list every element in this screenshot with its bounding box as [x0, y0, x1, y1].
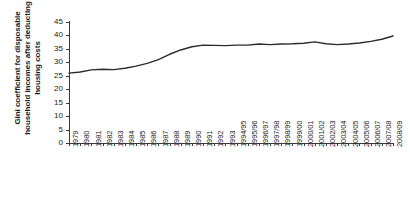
x-tick-label: 1988: [173, 131, 181, 147]
y-tick-label: 10: [41, 112, 63, 120]
y-tick-label: 45: [41, 18, 63, 26]
y-tick-mark: [66, 76, 69, 77]
x-tick-mark: [315, 143, 316, 146]
x-tick-mark: [170, 143, 171, 146]
x-tick-mark: [69, 143, 70, 146]
x-tick-label: 1997/98: [273, 121, 281, 147]
x-tick-label: 1982: [106, 131, 114, 147]
x-tick-mark: [125, 143, 126, 146]
x-tick-mark: [114, 143, 115, 146]
y-tick-label: 0: [41, 139, 63, 147]
x-tick-mark: [181, 143, 182, 146]
x-tick-mark: [359, 143, 360, 146]
y-axis-title-line-2: household incomes after deducting: [23, 1, 33, 134]
x-tick-mark: [393, 143, 394, 146]
x-tick-label: 1991: [206, 131, 214, 147]
x-tick-label: 2000/01: [307, 121, 315, 147]
x-tick-mark: [292, 143, 293, 146]
x-tick-mark: [371, 143, 372, 146]
x-tick-label: 1998/99: [284, 121, 292, 147]
y-tick-mark: [66, 103, 69, 104]
x-tick-label: 1985: [139, 131, 147, 147]
y-tick-mark: [66, 35, 69, 36]
x-tick-label: 2002/03: [329, 121, 337, 147]
x-tick-mark: [304, 143, 305, 146]
series-line-gini: [69, 36, 393, 73]
x-tick-label: 1979: [72, 131, 80, 147]
x-tick-mark: [91, 143, 92, 146]
y-tick-label: 40: [41, 31, 63, 39]
x-tick-label: 1989: [184, 131, 192, 147]
x-tick-label: 1986: [150, 131, 158, 147]
x-tick-mark: [348, 143, 349, 146]
x-tick-mark: [237, 143, 238, 146]
x-tick-label: 1983: [117, 131, 125, 147]
x-tick-label: 1994/95: [240, 121, 248, 147]
x-tick-label: 2008/09: [396, 121, 404, 147]
y-tick-mark: [66, 49, 69, 50]
x-tick-label: 1981: [95, 131, 103, 147]
x-tick-label: 1999/00: [296, 121, 304, 147]
x-tick-mark: [158, 143, 159, 146]
y-tick-label: 35: [41, 45, 63, 53]
y-tick-mark: [66, 130, 69, 131]
x-tick-label: 1987: [162, 131, 170, 147]
y-tick-label: 25: [41, 72, 63, 80]
x-tick-mark: [225, 143, 226, 146]
x-tick-label: 1984: [128, 131, 136, 147]
y-tick-label: 5: [41, 126, 63, 134]
x-tick-mark: [136, 143, 137, 146]
x-tick-label: 1995/96: [251, 121, 259, 147]
x-tick-label: 1980: [83, 131, 91, 147]
x-tick-label: 2004/05: [352, 121, 360, 147]
x-tick-label: 2006/07: [374, 121, 382, 147]
x-tick-label: 1990: [195, 131, 203, 147]
y-axis-line: [69, 21, 70, 144]
x-tick-mark: [203, 143, 204, 146]
x-tick-label: 2005/06: [363, 121, 371, 147]
y-tick-mark: [66, 62, 69, 63]
x-tick-label: 1992: [217, 131, 225, 147]
x-tick-mark: [192, 143, 193, 146]
gini-line-chart: Gini coefficient for disposable househol…: [0, 0, 410, 215]
y-tick-label: 15: [41, 99, 63, 107]
x-tick-mark: [270, 143, 271, 146]
y-tick-mark: [66, 89, 69, 90]
x-tick-mark: [337, 143, 338, 146]
y-tick-mark: [66, 22, 69, 23]
y-tick-label: 30: [41, 58, 63, 66]
x-tick-mark: [382, 143, 383, 146]
x-tick-mark: [326, 143, 327, 146]
x-tick-mark: [103, 143, 104, 146]
y-axis-title-line-1: Gini coefficient for disposable: [13, 11, 23, 124]
x-tick-label: 1996/97: [262, 121, 270, 147]
x-tick-label: 1993: [229, 131, 237, 147]
x-tick-label: 2003/04: [340, 121, 348, 147]
x-tick-mark: [248, 143, 249, 146]
x-tick-mark: [259, 143, 260, 146]
x-tick-label: 2007/08: [385, 121, 393, 147]
y-tick-mark: [66, 116, 69, 117]
y-tick-label: 20: [41, 85, 63, 93]
x-tick-label: 2001/02: [318, 121, 326, 147]
